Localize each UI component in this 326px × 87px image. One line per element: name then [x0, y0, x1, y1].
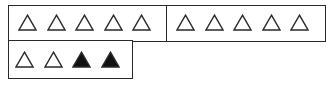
outline-triangle-icon: [75, 14, 94, 31]
group-3-triangles: [15, 51, 129, 68]
outline-triangle-icon: [104, 14, 123, 31]
outline-triangle-icon: [44, 51, 63, 68]
filled-triangle-icon: [72, 51, 91, 68]
outline-triangle-icon: [18, 14, 37, 31]
outline-triangle-icon: [132, 14, 151, 31]
outline-triangle-icon: [262, 14, 281, 31]
outline-triangle-icon: [176, 14, 195, 31]
outline-triangle-icon: [205, 14, 224, 31]
outline-triangle-icon: [233, 14, 252, 31]
group-1-triangles: [18, 14, 161, 31]
filled-triangle-icon: [101, 51, 120, 68]
group-2-triangles: [176, 14, 319, 31]
outline-triangle-icon: [15, 51, 34, 68]
outline-triangle-icon: [290, 14, 309, 31]
outline-triangle-icon: [47, 14, 66, 31]
